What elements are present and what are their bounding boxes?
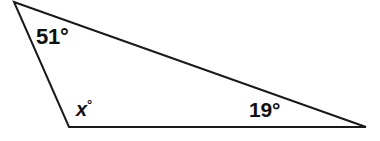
triangle-outline (14, 2, 366, 127)
angle-label-51: 51° (36, 26, 69, 48)
triangle-svg (0, 0, 380, 141)
angle-label-x-variable: x (76, 98, 87, 120)
angle-label-19: 19° (249, 99, 280, 120)
degree-symbol-icon: ° (87, 97, 92, 112)
angle-label-x: x° (76, 98, 92, 119)
triangle-angle-diagram: 51° x° 19° (0, 0, 380, 141)
